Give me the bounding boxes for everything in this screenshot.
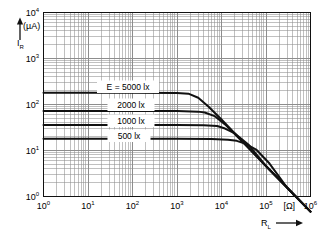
curve-label-2000lx: 2000 lx: [108, 99, 155, 112]
y-tick-text-3: 103: [26, 53, 40, 64]
y-tick-text-1: 101: [26, 145, 40, 156]
x-tick-text-0: 100: [37, 200, 51, 211]
x-tick-label-3: 103: [170, 200, 184, 211]
y-tick-labels: 100101102103104: [26, 7, 40, 202]
y-axis-unit: (µA): [23, 21, 40, 31]
y-tick-label-1: 101: [26, 145, 40, 156]
curve-label-1000lx-text: 1000 lx: [117, 116, 145, 126]
y-tick-text-2: 102: [26, 99, 40, 110]
x-axis-arrow-head: [296, 220, 303, 226]
curve-label-5000lx-text: E = 5000 lx: [107, 82, 151, 92]
y-tick-text-4: 104: [26, 7, 40, 18]
curve-label-500lx: 500 lx: [108, 130, 151, 143]
x-tick-label-1: 101: [81, 200, 95, 211]
x-tick-text-2: 102: [126, 200, 140, 211]
x-tick-label-2: 102: [126, 200, 140, 211]
x-tick-labels: 100101102103104105106: [37, 200, 318, 211]
curve-label-1000lx: 1000 lx: [108, 115, 155, 128]
y-axis-label-text: IR: [17, 38, 25, 50]
chart-svg: 100101102103104105106100101102103104[Ω]R…: [0, 0, 326, 241]
curve-label-500lx-text: 500 lx: [118, 131, 141, 141]
x-axis-unit: [Ω]: [283, 201, 295, 211]
x-tick-label-5: 105: [259, 200, 273, 211]
x-tick-text-3: 103: [170, 200, 184, 211]
y-tick-label-2: 102: [26, 99, 40, 110]
x-tick-label-0: 100: [37, 200, 51, 211]
x-tick-label-6: 106: [304, 200, 318, 211]
x-tick-label-4: 104: [215, 200, 229, 211]
y-tick-label-3: 103: [26, 53, 40, 64]
x-tick-text-5: 105: [259, 200, 273, 211]
y-tick-label-4: 104: [26, 7, 40, 18]
y-axis-label: IR(µA): [17, 18, 40, 50]
chart-figure: 100101102103104105106100101102103104[Ω]R…: [0, 0, 326, 241]
x-tick-text-4: 104: [215, 200, 229, 211]
x-tick-text-1: 101: [81, 200, 95, 211]
curve-label-5000lx: E = 5000 lx: [97, 81, 159, 94]
x-axis-label: RL: [261, 218, 303, 230]
x-tick-text-6: 106: [304, 200, 318, 211]
curve-label-2000lx-text: 2000 lx: [117, 100, 145, 110]
x-axis-label-text: RL: [261, 218, 272, 230]
